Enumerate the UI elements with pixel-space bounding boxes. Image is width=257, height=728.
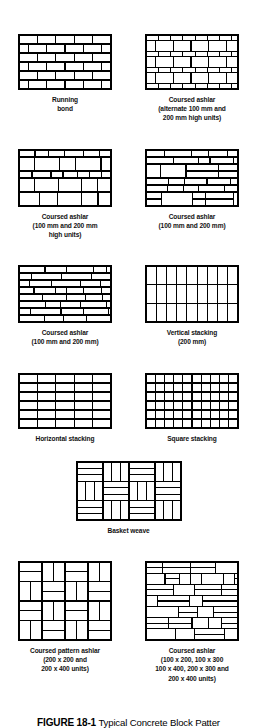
pattern-swatch-coursed-ashlar-100-200-b [18,265,112,323]
pattern-cell-running-bond: Running bond [12,34,118,123]
pattern-cell-square-stacking: Square stacking [139,373,245,443]
pattern-cell-coursed-ashlar-100-200: Coursed ashlar (100 mm and 200 mm) [139,149,245,240]
pattern-cell-horizontal-stacking: Horizontal stacking [12,373,118,443]
coursed-ashlar-100-200-drawing [146,150,238,206]
running-bond-drawing [19,35,111,89]
pattern-grid: Running bond Coursed ashlar (alternate 1… [0,34,257,683]
square-stacking-drawing [146,374,238,428]
coursed-ashlar-100-200-b-drawing [19,266,111,322]
row-spacer [12,443,245,461]
pattern-caption: Coursed ashlar (100 x 200, 100 x 300 100… [155,646,229,683]
coursed-ashlar-alternate-drawing [146,35,238,89]
pattern-caption: Coursed ashlar (100 mm and 200 mm) [159,212,226,230]
pattern-caption: Coursed pattern ashlar (200 x 200 and 20… [30,646,100,674]
coursed-ashlar-high-units-drawing [19,150,111,206]
pattern-caption: Coursed ashlar (100 mm and 200 mm high u… [33,212,98,240]
pattern-cell-basket-weave: Basket weave [12,461,245,535]
pattern-swatch-square-stacking [145,373,239,429]
pattern-swatch-coursed-pattern-ashlar [18,561,112,641]
pattern-cell-vertical-stacking: Vertical stacking (200 mm) [139,265,245,346]
pattern-swatch-coursed-ashlar-100-200 [145,149,239,207]
basket-weave-drawing [77,462,181,520]
pattern-swatch-vertical-stacking [145,265,239,323]
pattern-cell-coursed-ashlar-multi: Coursed ashlar (100 x 200, 100 x 300 100… [139,561,245,683]
horizontal-stacking-drawing [19,374,111,428]
pattern-cell-coursed-ashlar-alternate: Coursed ashlar (alternate 100 mm and 200… [139,34,245,123]
figure-concrete-block-patterns: Running bond Coursed ashlar (alternate 1… [0,0,257,728]
row-spacer [12,123,245,149]
row-spacer [12,239,245,265]
pattern-swatch-coursed-ashlar-multi [145,561,239,641]
pattern-caption: Square stacking [167,434,216,443]
figure-number: FIGURE 18-1 [37,717,96,728]
coursed-pattern-ashlar-drawing [19,562,111,640]
pattern-swatch-basket-weave [76,461,182,521]
pattern-swatch-coursed-ashlar-high-units [18,149,112,207]
pattern-cell-coursed-ashlar-100-200-b: Coursed ashlar (100 mm and 200 mm) [12,265,118,346]
pattern-cell-coursed-ashlar-high-units: Coursed ashlar (100 mm and 200 mm high u… [12,149,118,240]
row-spacer [12,535,245,561]
pattern-caption: Horizontal stacking [36,434,95,443]
pattern-caption: Running bond [52,95,78,113]
figure-title: Typical Concrete Block Patter [98,717,220,728]
pattern-caption: Vertical stacking (200 mm) [167,328,217,346]
pattern-caption: Coursed ashlar (100 mm and 200 mm) [32,328,99,346]
pattern-cell-coursed-pattern-ashlar: Coursed pattern ashlar (200 x 200 and 20… [12,561,118,683]
pattern-swatch-coursed-ashlar-alternate [145,34,239,90]
row-spacer [12,347,245,373]
pattern-swatch-running-bond [18,34,112,90]
pattern-swatch-horizontal-stacking [18,373,112,429]
figure-caption: FIGURE 18-1 Typical Concrete Block Patte… [0,717,257,728]
coursed-ashlar-multi-drawing [146,562,238,640]
pattern-caption: Coursed ashlar (alternate 100 mm and 200… [158,95,226,123]
vertical-stacking-drawing [146,266,238,322]
top-spacer [0,0,257,34]
pattern-caption: Basket weave [107,526,149,535]
